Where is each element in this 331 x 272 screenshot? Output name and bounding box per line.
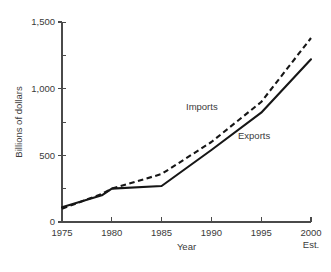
y-axis-minor-ticks (62, 22, 66, 189)
x-tick-label: 1975 (51, 227, 72, 238)
x-tick-label: 1990 (201, 227, 222, 238)
series-line-exports (62, 59, 311, 207)
series-line-imports (62, 38, 311, 209)
x-tick-label: 2000 (300, 227, 321, 238)
y-tick-label: 0 (50, 216, 55, 227)
y-tick-label: 500 (39, 150, 55, 161)
x-tick-label: 1980 (101, 227, 122, 238)
axis-lines (62, 22, 311, 222)
series-label-imports: Imports (186, 101, 218, 112)
x-axis-est-note: Est. (303, 239, 319, 250)
y-axis-tick-labels: 05001,0001,500 (31, 16, 55, 227)
y-tick-label: 1,500 (31, 16, 55, 27)
x-axis-tick-labels: 197519801985199019952000 (51, 227, 321, 238)
x-tick-label: 1985 (151, 227, 172, 238)
plot-axes (58, 22, 311, 222)
chart-container: 05001,0001,500 197519801985199019952000 … (0, 0, 331, 272)
trade-line-chart: 05001,0001,500 197519801985199019952000 … (0, 0, 331, 272)
y-axis-major-ticks (58, 22, 62, 222)
x-axis-major-ticks (62, 217, 311, 222)
series-label-exports: Exports (238, 130, 270, 141)
x-axis-title: Year (177, 241, 196, 252)
y-tick-label: 1,000 (31, 83, 55, 94)
x-tick-label: 1995 (251, 227, 272, 238)
y-axis-title: Billions of dollars (13, 86, 24, 158)
